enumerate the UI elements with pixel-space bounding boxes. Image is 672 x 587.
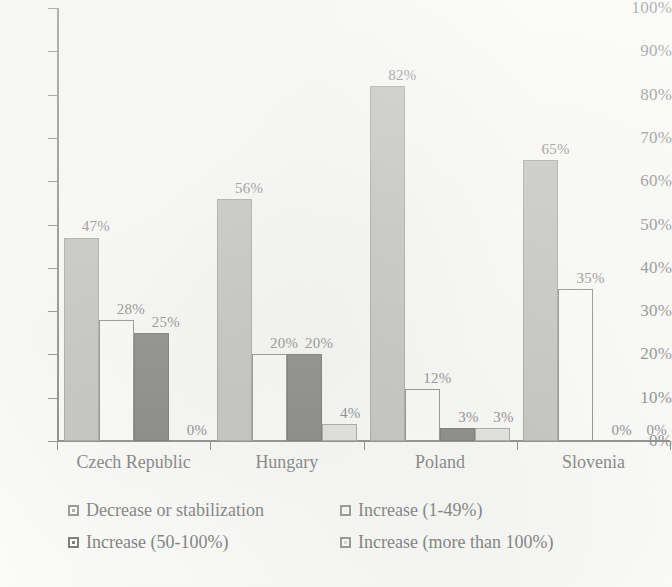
bar (405, 389, 440, 441)
category-label: Slovenia (517, 452, 670, 472)
legend-swatch-icon (68, 537, 79, 548)
y-tick (48, 398, 57, 399)
y-tick (48, 354, 57, 355)
bar-value-label: 35% (577, 271, 605, 286)
x-tick (210, 441, 211, 450)
bar-value-label: 25% (152, 315, 180, 330)
bar (322, 424, 357, 441)
legend-label: Decrease or stabilization (86, 500, 264, 520)
bar-value-label: 82% (388, 68, 416, 83)
y-tick (48, 8, 57, 9)
bar (370, 86, 405, 441)
y-tick (48, 311, 57, 312)
bar-value-label: 0% (612, 423, 632, 438)
legend-label: Increase (1-49%) (358, 500, 482, 520)
x-tick (670, 441, 671, 450)
category-label: Hungary (210, 452, 363, 472)
bar-value-label: 4% (340, 406, 360, 421)
bar-value-label: 20% (305, 336, 333, 351)
bar (523, 160, 558, 441)
y-tick (48, 181, 57, 182)
legend-item[interactable]: Increase (50-100%) (68, 532, 228, 552)
bar-chart: 0%10%20%30%40%50%60%70%80%90%100% 47%28%… (0, 0, 672, 587)
y-tick (48, 95, 57, 96)
legend-swatch-icon (340, 537, 351, 548)
bar (134, 333, 169, 441)
legend-label: Increase (more than 100%) (358, 532, 553, 552)
bar (287, 354, 322, 441)
bar (64, 238, 99, 442)
bar-value-label: 20% (270, 336, 298, 351)
legend-swatch-icon (68, 505, 79, 516)
y-tick (48, 441, 57, 442)
bar-value-label: 3% (458, 410, 478, 425)
legend-label: Increase (50-100%) (86, 532, 228, 552)
category-label: Poland (364, 452, 517, 472)
x-tick (364, 441, 365, 450)
legend-item[interactable]: Decrease or stabilization (68, 500, 264, 520)
bar-value-label: 47% (82, 219, 110, 234)
plot-area (57, 8, 670, 441)
bar-value-label: 3% (493, 410, 513, 425)
y-tick (48, 225, 57, 226)
x-tick (57, 441, 58, 450)
bar (475, 428, 510, 441)
bar (99, 320, 134, 441)
bar-value-label: 12% (423, 371, 451, 386)
x-tick (517, 441, 518, 450)
bar (440, 428, 475, 441)
bar-value-label: 65% (542, 142, 570, 157)
bar-value-label: 28% (117, 302, 145, 317)
y-tick (48, 51, 57, 52)
chart-legend: Decrease or stabilizationIncrease (1-49%… (0, 500, 672, 580)
legend-item[interactable]: Increase (1-49%) (340, 500, 482, 520)
bar-value-label: 0% (647, 423, 667, 438)
y-tick (48, 138, 57, 139)
legend-item[interactable]: Increase (more than 100%) (340, 532, 553, 552)
legend-swatch-icon (340, 505, 351, 516)
bar (252, 354, 287, 441)
y-tick (48, 268, 57, 269)
bar (217, 199, 252, 441)
bar-value-label: 0% (187, 423, 207, 438)
category-label: Czech Republic (57, 452, 210, 472)
bar-value-label: 56% (235, 181, 263, 196)
bar (558, 289, 593, 441)
